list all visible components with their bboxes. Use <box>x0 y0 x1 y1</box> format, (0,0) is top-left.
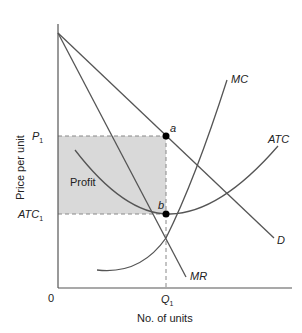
profit-label: Profit <box>70 176 96 188</box>
y-axis-label: Price per unit <box>14 135 26 200</box>
profit-area <box>58 136 166 214</box>
mr-label: MR <box>190 270 207 282</box>
origin-label: 0 <box>48 292 54 304</box>
atc1-label: ATC1 <box>17 208 43 222</box>
x-axis-label: No. of units <box>137 312 193 324</box>
demand-label: D <box>277 234 285 246</box>
economics-diagram: a b MC ATC D MR Profit P1 ATC1 Q1 0 No. … <box>0 0 302 333</box>
atc-curve-label: ATC <box>267 133 289 145</box>
point-b-label: b <box>158 199 164 211</box>
mc-label: MC <box>231 73 248 85</box>
point-a-marker <box>163 133 170 140</box>
point-b-marker <box>163 211 170 218</box>
point-a-label: a <box>170 122 176 134</box>
p1-label: P1 <box>32 130 43 144</box>
q1-label: Q1 <box>161 293 174 307</box>
